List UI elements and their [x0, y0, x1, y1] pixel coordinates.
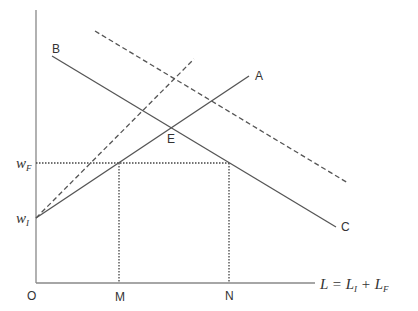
curve-a — [36, 76, 249, 218]
label-c: C — [341, 220, 350, 234]
dashed-demand-curve — [95, 31, 348, 183]
label-a: A — [255, 69, 263, 83]
label-m: M — [115, 290, 125, 304]
label-b: B — [52, 42, 60, 56]
label-origin: O — [27, 289, 36, 303]
labor-market-diagram: A B C E wF wI O M N L = LI + LF — [0, 0, 418, 311]
x-axis-title: L = LI + LF — [319, 276, 389, 294]
label-e: E — [167, 132, 175, 146]
label-wi: wI — [16, 210, 30, 228]
curve-bc — [52, 56, 336, 227]
label-wf: wF — [16, 155, 32, 173]
label-n: N — [225, 289, 234, 303]
